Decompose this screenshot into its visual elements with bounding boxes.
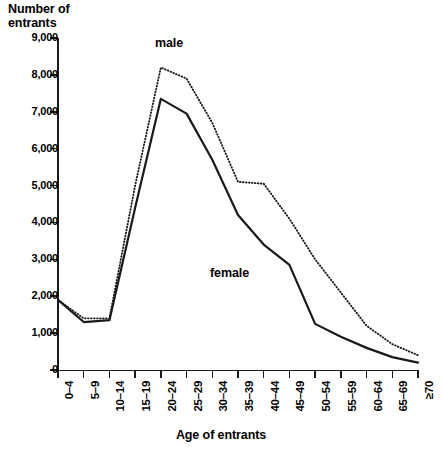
x-tick-mark [392, 371, 394, 378]
x-tick-mark [263, 371, 265, 378]
x-tick-label: 30–34 [217, 381, 229, 411]
plot-area [58, 38, 418, 370]
chart-container: Number of entrants 01,0002,0003,0004,000… [0, 0, 442, 451]
x-tick-mark [109, 371, 111, 378]
y-tick-label: 7,000 [12, 105, 58, 117]
x-tick-mark [212, 371, 214, 378]
x-tick-label: 35–39 [243, 381, 255, 411]
x-tick-label: 50–54 [320, 381, 332, 411]
x-tick-label: 0–4 [63, 381, 75, 399]
x-tick-mark [57, 371, 59, 378]
y-tick-label: 1,000 [12, 326, 58, 338]
x-tick-label: 15–19 [140, 381, 152, 411]
x-tick-label: 45–49 [294, 381, 306, 411]
y-tick-label: 6,000 [12, 142, 58, 154]
series-label-male: male [155, 36, 183, 50]
x-axis-title: Age of entrants [0, 428, 442, 442]
x-tick-mark [289, 371, 291, 378]
y-tick-label: 0 [12, 363, 58, 375]
y-tick-label: 8,000 [12, 68, 58, 80]
x-tick-label: 5–9 [89, 381, 101, 399]
x-tick-label: 55–59 [346, 381, 358, 411]
x-tick-mark [237, 371, 239, 378]
x-tick-mark [340, 371, 342, 378]
x-tick-mark [366, 371, 368, 378]
y-tick-label: 3,000 [12, 252, 58, 264]
y-tick-label: 5,000 [12, 179, 58, 191]
x-tick-label: 40–44 [269, 381, 281, 411]
x-tick-label: 25–29 [192, 381, 204, 411]
x-tick-label: ≥70 [423, 381, 435, 399]
x-tick-label: 10–14 [114, 381, 126, 411]
x-tick-mark [186, 371, 188, 378]
y-axis-title: Number of entrants [8, 2, 70, 30]
x-tick-mark [417, 371, 419, 378]
x-tick-label: 60–64 [372, 381, 384, 411]
x-tick-mark [314, 371, 316, 378]
series-lines [58, 38, 418, 370]
x-tick-mark [160, 371, 162, 378]
y-tick-label: 4,000 [12, 215, 58, 227]
x-tick-label: 20–24 [166, 381, 178, 411]
y-tick-label: 9,000 [12, 31, 58, 43]
y-tick-label: 2,000 [12, 289, 58, 301]
x-tick-mark [134, 371, 136, 378]
x-tick-mark [83, 371, 85, 378]
series-label-female: female [210, 266, 249, 280]
x-tick-label: 65–69 [397, 381, 409, 411]
